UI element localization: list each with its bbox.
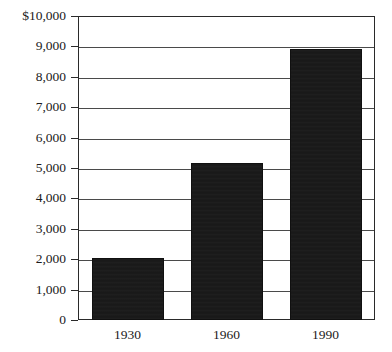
y-axis-tick-label: 5,000: [0, 161, 66, 175]
y-axis-tick: [71, 77, 78, 78]
x-axis-tick-label: 1930: [78, 328, 178, 342]
y-axis-tick: [71, 229, 78, 230]
y-axis-tick-label: 3,000: [0, 222, 66, 236]
bar-1960: [191, 163, 263, 320]
y-axis-tick: [71, 290, 78, 291]
y-axis-tick-label: 1,000: [0, 283, 66, 297]
y-axis-tick: [71, 259, 78, 260]
bar-1930: [92, 258, 164, 320]
gridline: [79, 47, 374, 48]
y-axis-tick: [71, 168, 78, 169]
y-axis-tick: [71, 16, 78, 17]
bar-1990: [290, 49, 362, 320]
y-axis-tick-label: 6,000: [0, 131, 66, 145]
y-axis-tick: [71, 46, 78, 47]
y-axis-tick: [71, 320, 78, 321]
y-axis-tick-label: 2,000: [0, 252, 66, 266]
y-axis-tick-label: 0: [0, 313, 66, 327]
y-axis-tick: [71, 107, 78, 108]
y-axis-tick: [71, 198, 78, 199]
y-axis-tick-label: 7,000: [0, 100, 66, 114]
y-axis-tick-label: 9,000: [0, 40, 66, 54]
bar-chart: 01,0002,0003,0004,0005,0006,0007,0008,00…: [0, 0, 392, 352]
y-axis-tick-label: $10,000: [0, 9, 66, 23]
x-axis-tick-label: 1960: [177, 328, 277, 342]
x-axis-tick-label: 1990: [276, 328, 376, 342]
y-axis-tick-label: 4,000: [0, 192, 66, 206]
y-axis-tick: [71, 138, 78, 139]
y-axis-tick-label: 8,000: [0, 70, 66, 84]
